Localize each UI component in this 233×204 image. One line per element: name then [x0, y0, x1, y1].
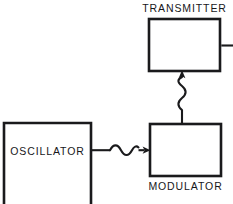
block-diagram: TRANSMITTER MODULATOR OSCILLATOR	[0, 0, 233, 204]
oscillator-label: OSCILLATOR	[10, 145, 85, 157]
modulator-block	[150, 124, 221, 176]
oscillator-block	[4, 123, 91, 204]
diagram-canvas: TRANSMITTER MODULATOR OSCILLATOR	[0, 0, 233, 204]
modulator-to-transmitter-wave	[178, 77, 185, 110]
modulator-label: MODULATOR	[148, 180, 222, 192]
transmitter-label: TRANSMITTER	[142, 2, 227, 14]
oscillator-to-modulator-wave	[110, 145, 139, 155]
transmitter-block	[149, 19, 220, 71]
